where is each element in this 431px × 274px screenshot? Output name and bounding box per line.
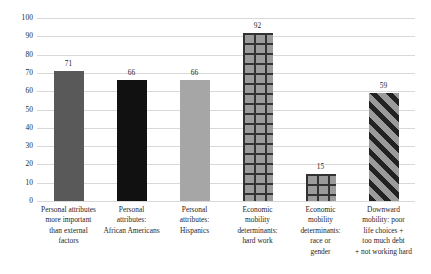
category-label-line: Personal [100,205,163,215]
bar-value-label: 15 [317,163,324,170]
y-axis-tick-label: 70 [25,69,33,76]
category-label-line: hard work [226,236,289,246]
category-label-line: Economic [289,205,352,215]
bar [180,80,210,201]
y-axis-tick-label: 10 [25,179,33,186]
bars-layer: 716666921559 [37,18,415,201]
y-axis-tick-label: 100 [22,14,33,21]
y-axis-tick-label: 90 [25,33,33,40]
category-label-line: factors [37,236,100,246]
bar-group: 71 [37,18,100,201]
y-axis-tick-label: 20 [25,161,33,168]
bar-group: 66 [163,18,226,201]
y-axis-tick-label: 0 [29,197,33,204]
bar-group: 92 [226,18,289,201]
category-label-line: Economic [226,205,289,215]
category-label-line: more important [37,215,100,225]
category-label-line: attributes: [100,215,163,225]
bar-value-label: 66 [191,69,198,76]
category-label: Personalattributes:Hispanics [163,205,226,236]
y-axis-tick-label: 30 [25,142,33,149]
y-axis-tick-label: 40 [25,124,33,131]
category-label-line: mobility [289,215,352,225]
bar [306,174,336,201]
category-label-line: too much debt [352,236,415,246]
bar-group: 66 [100,18,163,201]
category-label-line: + not working hard [352,247,415,257]
category-label-line: mobility [226,215,289,225]
category-label-line: mobility: poor [352,215,415,225]
bar-value-label: 71 [65,60,72,67]
bar-group: 15 [289,18,352,201]
y-axis-tick-label: 80 [25,51,33,58]
bar [243,33,273,201]
y-axis-tick-label: 50 [25,106,33,113]
category-label-line: Downward [352,205,415,215]
category-label: Personal attributesmore importantthan ex… [37,205,100,247]
category-label: Economicmobilitydeterminants:hard work [226,205,289,247]
category-label-line: race or [289,236,352,246]
y-axis-tick-label: 60 [25,87,33,94]
category-label: Economicmobilitydeterminants:race orgend… [289,205,352,257]
bar-chart: 1009080706050403020100 716666921559 Pers… [0,0,431,274]
x-axis-category-labels: Personal attributesmore importantthan ex… [37,205,415,271]
bar-value-label: 92 [254,22,261,29]
gridline [37,201,415,202]
bar-value-label: 59 [380,82,387,89]
bar-value-label: 66 [128,69,135,76]
category-label-line: attributes: [163,215,226,225]
category-label-line: African Americans [100,226,163,236]
category-label-line: than external [37,226,100,236]
bar-group: 59 [352,18,415,201]
category-label: Downwardmobility: poorlife choices +too … [352,205,415,257]
category-label-line: gender [289,247,352,257]
category-label: Personalattributes:African Americans [100,205,163,236]
category-label-line: Hispanics [163,226,226,236]
bar [369,93,399,201]
category-label-line: determinants: [226,226,289,236]
category-label-line: determinants: [289,226,352,236]
bar [54,71,84,201]
y-axis: 1009080706050403020100 [0,18,33,201]
bar [117,80,147,201]
category-label-line: Personal [163,205,226,215]
category-label-line: life choices + [352,226,415,236]
category-label-line: Personal attributes [37,205,100,215]
